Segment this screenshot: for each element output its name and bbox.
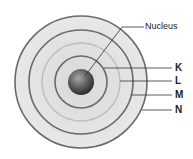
shell-l-label: L — [175, 76, 181, 86]
nucleus — [68, 69, 94, 95]
shell-m-label: M — [175, 90, 183, 100]
nucleus-label: Nucleus — [145, 22, 178, 31]
shell-n-label: N — [175, 105, 182, 115]
shell-k-label: K — [175, 63, 182, 73]
